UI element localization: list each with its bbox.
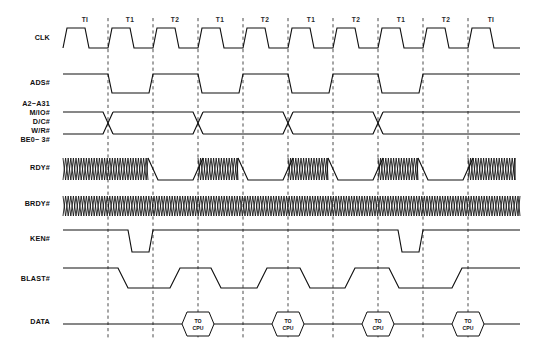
phase-label-9: TI: [488, 16, 494, 23]
data-bubble-label-top-1: TO: [284, 318, 291, 324]
signal-label-d-c: D/C#: [33, 117, 50, 126]
signal-label-clk: CLK: [35, 33, 51, 42]
phase-label-6: T2: [352, 16, 360, 23]
signal-label-ken: KEN#: [30, 234, 50, 243]
signal-label-ads: ADS#: [30, 78, 50, 87]
signal-label-be0-3: BE0− 3#: [20, 135, 50, 144]
signal-label-rdy: RDY#: [30, 163, 50, 172]
phase-label-7: T1: [397, 16, 405, 23]
signal-label-a2-a31: A2−A31: [22, 99, 50, 108]
timing-diagram-canvas: TIT1T2T1T2T1T2T1T2TI CLKADS#A2−A31M/IO#D…: [0, 0, 535, 349]
signal-label-brdy: BRDY#: [25, 199, 50, 208]
signal-label-blast: BLAST#: [21, 274, 50, 283]
timing-diagram-root: TIT1T2T1T2T1T2T1T2TI CLKADS#A2−A31M/IO#D…: [0, 0, 535, 349]
data-bubble-label-bottom-0: CPU: [193, 325, 204, 331]
phase-label-0: TI: [82, 16, 88, 23]
data-bubble-label-bottom-3: CPU: [463, 325, 474, 331]
signal-label-w-r: W/R#: [31, 126, 50, 135]
signal-label-m-io: M/IO#: [29, 108, 50, 117]
data-bubble-label-top-0: TO: [194, 318, 201, 324]
data-bubble-label-bottom-1: CPU: [283, 325, 294, 331]
data-bubble-label-top-2: TO: [374, 318, 381, 324]
data-bubble-label-bottom-2: CPU: [373, 325, 384, 331]
phase-label-2: T2: [171, 16, 179, 23]
data-bubble-label-top-3: TO: [464, 318, 471, 324]
phase-label-4: T2: [261, 16, 269, 23]
phase-label-1: T1: [126, 16, 134, 23]
phase-label-5: T1: [307, 16, 315, 23]
phase-label-8: T2: [442, 16, 450, 23]
phase-label-3: T1: [216, 16, 224, 23]
signal-label-data: DATA: [30, 317, 50, 326]
